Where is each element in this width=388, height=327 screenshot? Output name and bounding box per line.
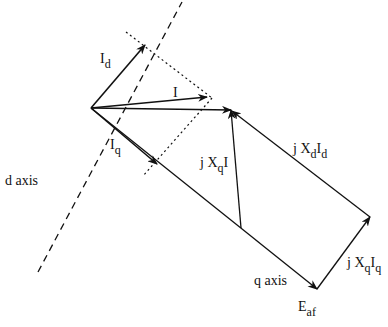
I-arrow	[91, 97, 207, 108]
jXqIq-label: j XqIq	[347, 256, 381, 274]
V-arrow	[91, 108, 231, 110]
jXqIq-arrow	[317, 217, 370, 289]
jXqI-label: j XqI	[200, 156, 228, 174]
phasor-diagram-svg	[0, 0, 388, 327]
q-axis-label: q axis	[254, 274, 287, 288]
projection-line-upper	[126, 32, 212, 98]
I-label: I	[173, 86, 178, 100]
Id-label: Id	[100, 52, 111, 70]
Iq-label: Iq	[110, 138, 121, 156]
Iq-arrow	[91, 108, 157, 164]
jXdId-label: j XdId	[293, 142, 327, 160]
phasor-diagram: Id I Iq d axis j XqI j XdId j XqIq q axi…	[0, 0, 388, 327]
jXdId-arrow	[232, 111, 370, 217]
q-axis-line	[91, 108, 317, 289]
d-axis-label: d axis	[5, 174, 38, 188]
Eaf-label: Eaf	[298, 300, 316, 318]
jXqI-arrow	[231, 110, 241, 228]
